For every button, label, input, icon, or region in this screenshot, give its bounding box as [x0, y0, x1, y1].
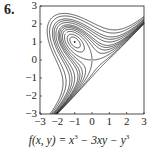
local-max-marker: [74, 41, 76, 43]
x-tick-label: 3: [136, 115, 152, 127]
contour-plot: [0, 0, 158, 155]
x-tick-label: 2: [119, 115, 135, 127]
caption-prefix: f(x, y) = x: [29, 134, 74, 146]
x-tick-label: −1: [67, 115, 83, 127]
x-tick-label: 0: [84, 115, 100, 127]
contour-lines: [47, 13, 144, 114]
y-tick-label: 3: [25, 0, 37, 11]
caption-exp2: 3: [126, 133, 130, 141]
contour-line: [50, 16, 144, 114]
y-tick-label: −1: [25, 71, 37, 83]
contour-line: [57, 24, 144, 114]
y-tick-label: 0: [25, 53, 37, 65]
y-tick-label: 2: [25, 17, 37, 29]
y-tick-label: −2: [25, 89, 37, 101]
caption-mid: − 3xy − y: [78, 134, 126, 146]
y-tick-label: 1: [25, 35, 37, 47]
x-tick-label: 1: [101, 115, 117, 127]
function-caption: f(x, y) = x3 − 3xy − y3: [0, 133, 158, 146]
x-tick-label: −2: [49, 115, 65, 127]
x-tick-label: −3: [32, 115, 48, 127]
